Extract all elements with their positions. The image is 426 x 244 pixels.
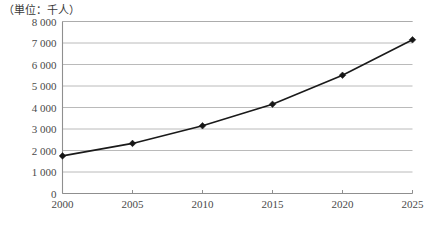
y-axis-tick-labels: 01 0002 0003 0004 0005 0006 0007 0008 00… bbox=[32, 16, 57, 200]
chart-page: （単位：千人） 01 0002 0003 0004 0005 0006 0007… bbox=[0, 0, 426, 244]
x-tick-label: 2020 bbox=[332, 198, 355, 210]
y-tick-label: 5 000 bbox=[32, 80, 57, 92]
y-tick-label: 4 000 bbox=[32, 102, 57, 114]
y-tick-label: 2 000 bbox=[32, 145, 57, 157]
x-tick-label: 2015 bbox=[262, 198, 285, 210]
data-point-marker bbox=[129, 140, 136, 147]
x-axis-tick-labels: 200020052010201520202025 bbox=[52, 198, 425, 210]
data-markers bbox=[59, 36, 416, 159]
series-line bbox=[63, 40, 413, 156]
line-chart: 01 0002 0003 0004 0005 0006 0007 0008 00… bbox=[0, 0, 426, 244]
y-tick-label: 3 000 bbox=[32, 123, 57, 135]
data-point-marker bbox=[269, 101, 276, 108]
x-tick-label: 2025 bbox=[402, 198, 425, 210]
data-point-marker bbox=[199, 122, 206, 129]
x-tick-label: 2005 bbox=[122, 198, 145, 210]
gridlines bbox=[63, 22, 413, 173]
y-tick-label: 7 000 bbox=[32, 37, 57, 49]
chart-canvas: 01 0002 0003 0004 0005 0006 0007 0008 00… bbox=[0, 0, 426, 244]
y-tick-label: 8 000 bbox=[32, 16, 57, 28]
y-tick-label: 1 000 bbox=[32, 166, 57, 178]
y-tick-label: 6 000 bbox=[32, 59, 57, 71]
data-point-marker bbox=[409, 36, 416, 43]
x-tick-label: 2010 bbox=[192, 198, 215, 210]
x-tick-label: 2000 bbox=[52, 198, 75, 210]
data-point-marker bbox=[339, 72, 346, 79]
data-point-marker bbox=[59, 153, 66, 160]
data-series bbox=[63, 40, 413, 156]
